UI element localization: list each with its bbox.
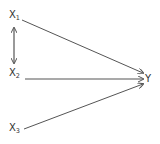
node-x3-subscript: 3 (16, 127, 20, 135)
node-x1-label: X (9, 9, 16, 20)
node-x2-subscript: 2 (16, 72, 20, 80)
path-diagram: X1 X2 X3 Y (0, 0, 160, 144)
edge-x1-y (22, 20, 143, 73)
node-y-label: Y (145, 73, 151, 84)
diagram-edges (0, 0, 160, 144)
edge-x3-y (24, 84, 143, 129)
node-x2-label: X (9, 67, 16, 78)
node-x1-subscript: 1 (16, 14, 20, 22)
node-x3: X3 (9, 123, 20, 135)
node-y: Y (145, 74, 151, 84)
node-x2: X2 (9, 68, 20, 80)
node-x3-label: X (9, 122, 16, 133)
node-x1: X1 (9, 10, 20, 22)
